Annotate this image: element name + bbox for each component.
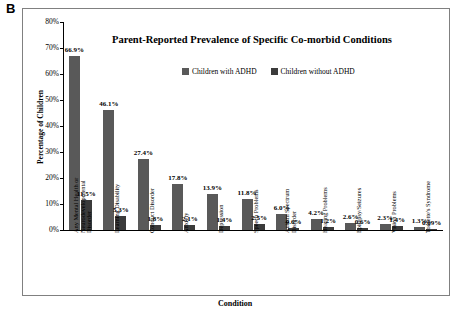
y-axis-tick-label: 80% (33, 18, 59, 26)
y-axis-tick-label: 20% (33, 174, 59, 182)
y-axis-tick-label: 40% (33, 122, 59, 130)
x-axis-tick-line: Tourette's Syndrome (425, 181, 432, 233)
y-axis-tick-label: 70% (33, 44, 59, 52)
y-axis-tick-label: 50% (33, 96, 59, 104)
y-axis-tick-label: 10% (33, 200, 59, 208)
chart-figure: B Percentage of Children0%10%20%30%40%50… (0, 0, 457, 313)
bar-value-label: 5.3% (106, 207, 136, 214)
x-axis-title: Condition (218, 299, 252, 308)
legend-label: Children without ADHD (281, 67, 355, 76)
x-axis-tick-label: Anxiety (183, 213, 190, 233)
legend-label: Children with ADHD (192, 67, 257, 76)
bar-value-label: 17.8% (163, 175, 193, 182)
x-axis-tick-line: Speech Problems (253, 189, 260, 233)
bar-value-label: 27.4% (128, 150, 158, 157)
x-axis-tick-line: Epilepsy/Seizures (356, 188, 363, 233)
bar-value-label: 46.1% (94, 101, 124, 108)
bar-value-label: 13.9% (197, 185, 227, 192)
x-axis-tick-line: Vision Problems (391, 191, 398, 233)
x-axis-tick-label: Vision Problems (391, 191, 398, 233)
x-axis-tick-label: Learning Disability (114, 184, 121, 233)
bar-value-label: 66.9% (59, 47, 89, 54)
bar-value-label: 0.09% (417, 220, 447, 227)
x-axis-tick-line: Learning Disability (114, 184, 121, 233)
x-axis-tick-line: Anxiety (183, 213, 190, 233)
x-axis-tick-label: Speech Problems (253, 189, 260, 233)
y-axis-tick-label: 0% (33, 226, 59, 234)
panel-label: B (6, 2, 15, 15)
x-axis-tick-label: Depression (218, 205, 225, 233)
x-axis-tick-label: Conduct Disorder (149, 188, 156, 233)
x-axis-tick-line: Disorder (86, 178, 93, 233)
bar-value-label: 2.1% (175, 216, 205, 223)
y-axis-tick-label: 30% (33, 148, 59, 156)
x-axis-tick-label: Autism SpectrumDisorder (284, 189, 297, 233)
legend-item: Children with ADHD (182, 67, 257, 76)
x-axis-tick-line: Conduct Disorder (149, 188, 156, 233)
x-axis-tick-line: Hearing Problems (322, 187, 329, 233)
x-axis-tick-label: Tourette's Syndrome (425, 181, 432, 233)
x-axis-tick-line: Depression (218, 205, 225, 233)
y-axis-tick-label: 60% (33, 70, 59, 78)
legend-item: Children without ADHD (271, 67, 355, 76)
x-axis-tick-label: Epilepsy/Seizures (356, 188, 363, 233)
legend-swatch (182, 68, 189, 75)
x-axis-tick-label: Any Mental Health orNeurodevelopmentalDi… (73, 178, 93, 233)
chart-title: Parent-Reported Prevalence of Specific C… (112, 34, 392, 45)
x-axis-tick-label: Hearing Problems (322, 187, 329, 233)
x-axis-tick-line: Disorder (290, 189, 297, 233)
chart-legend: Children with ADHDChildren without ADHD (182, 67, 369, 76)
legend-swatch (271, 68, 278, 75)
